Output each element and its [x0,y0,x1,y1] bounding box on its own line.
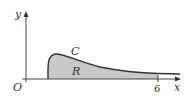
x-axis-label: x [174,81,181,94]
curve-region-diagram: y x O C R 6 [0,0,188,98]
y-axis-arrow-icon [24,11,29,17]
region-label: R [71,65,80,78]
region-r-shading [48,54,158,79]
y-axis-label: y [14,8,22,21]
origin-label: O [13,81,22,94]
x-tick-label: 6 [154,83,160,94]
curve-label: C [71,45,80,58]
